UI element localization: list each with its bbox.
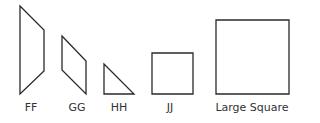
label-gg: GG: [68, 101, 85, 114]
shape-large-square: [216, 20, 289, 94]
shape-gg: [62, 36, 86, 94]
label-jj: JJ: [167, 101, 174, 114]
shape-jj: [152, 53, 193, 94]
label-hh: HH: [111, 101, 128, 114]
shape-hh: [104, 64, 134, 94]
label-ff: FF: [25, 101, 38, 114]
label-large-square: Large Square: [215, 101, 288, 114]
shape-ff: [20, 6, 44, 94]
